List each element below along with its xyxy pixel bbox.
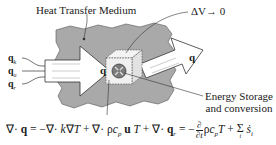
energy-source-icon (112, 64, 126, 78)
outgoing-arrow-label: q (189, 52, 195, 63)
flux-subscript: u (14, 72, 17, 78)
flux-label-k: qk (8, 53, 16, 65)
volume-limit-label: ΔV→ 0 (191, 6, 225, 17)
medium-label: Heat Transfer Medium (36, 5, 136, 16)
flux-subscript: r (14, 85, 16, 91)
energy-storage-line2: and conversion (205, 102, 273, 114)
energy-storage-line1: Energy Storage (205, 90, 273, 102)
flux-label-u: qu (8, 66, 17, 78)
incoming-arrow-label: q (100, 65, 106, 76)
flux-label-r: qr (8, 79, 16, 91)
energy-equation: ∇· q = −∇· k∇T + ∇· ρcp u T + ∇· qr = −∂… (6, 121, 253, 140)
energy-storage-label: Energy Storage and conversion (205, 90, 273, 114)
